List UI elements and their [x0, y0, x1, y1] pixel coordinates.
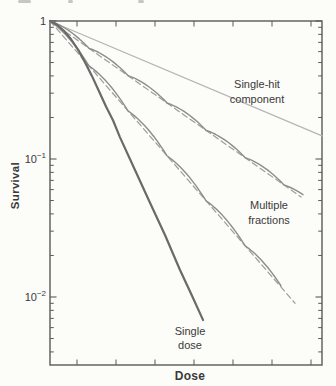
figure-page: 110−110−2Single-hitcomponentMultiplefrac…	[0, 0, 336, 386]
y-tick-label: 10−2	[25, 289, 47, 303]
annotation-single-dose-label-line1: Single	[175, 325, 206, 337]
curve-single-dose	[50, 21, 203, 320]
y-tick-label: 1	[40, 15, 46, 27]
annotation-multiple-fractions-label-line1: Multiple	[250, 199, 288, 211]
survival-vs-dose-chart: 110−110−2Single-hitcomponentMultiplefrac…	[0, 0, 336, 386]
annotation-single-hit-label-line1: Single-hit	[234, 78, 280, 90]
annotation-single-dose-label-line2: dose	[178, 339, 202, 351]
annotation-single-hit-label-line2: component	[230, 93, 284, 105]
y-tick-label: 10−1	[25, 151, 47, 165]
y-axis-title: Survival	[9, 162, 21, 209]
curve-multi-upper-solid	[50, 21, 303, 195]
x-axis-title: Dose	[175, 369, 206, 383]
curve-single-hit	[50, 21, 322, 136]
annotation-multiple-fractions-label-line2: fractions	[248, 214, 290, 226]
